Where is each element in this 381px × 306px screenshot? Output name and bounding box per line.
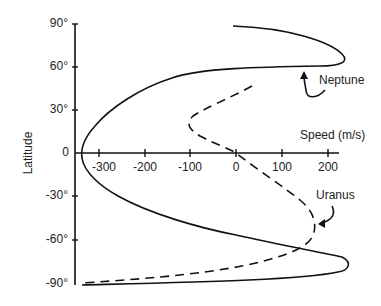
y-tick-label: -60°: [32, 232, 68, 246]
y-tick-label: 60°: [32, 59, 68, 73]
neptune-label: Neptune: [319, 73, 364, 87]
y-axis-title: Latitude: [21, 123, 35, 183]
x-tick-label: 200: [308, 160, 348, 174]
x-tick-label: -200: [125, 160, 165, 174]
y-tick-label: -90°: [32, 276, 68, 290]
uranus-label: Uranus: [316, 188, 355, 202]
x-tick-label: 100: [262, 160, 302, 174]
x-tick-label: -100: [170, 160, 210, 174]
x-tick-label: -300: [84, 160, 124, 174]
uranus-curve: [82, 86, 315, 283]
x-tick-label: 0: [216, 160, 256, 174]
y-tick-label: 30°: [32, 102, 68, 116]
uranus-arrowhead-icon: [318, 219, 325, 228]
x-axis-title: Speed (m/s): [300, 128, 365, 142]
y-tick-label: 90°: [32, 16, 68, 30]
neptune-curve: [82, 26, 349, 285]
y-tick-label: -30°: [32, 188, 68, 202]
y-tick-label: 0: [33, 145, 69, 159]
neptune-arrowhead-icon: [300, 71, 308, 79]
